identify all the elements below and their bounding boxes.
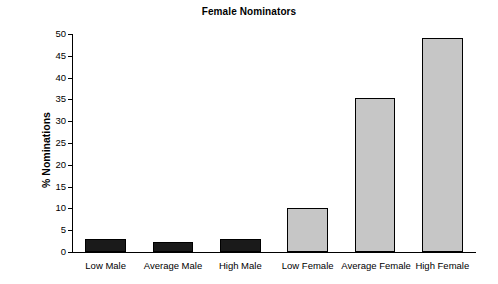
plot-area: 05101520253035404550 Low MaleAverage Mal… [72,34,476,253]
bar [355,98,395,252]
bar [422,38,462,253]
y-tick-mark [68,252,72,253]
x-tick-label: Low Male [72,260,139,271]
y-tick-label: 50 [38,29,66,39]
bar [153,242,193,252]
y-tick-label: 20 [38,160,66,170]
x-tick-label: Average Female [341,260,408,271]
y-tick-mark [68,165,72,166]
x-tick-label: Low Female [274,260,341,271]
bar [287,208,327,252]
y-tick-mark [68,230,72,231]
y-tick-label: 5 [38,225,66,235]
y-tick-label: 10 [38,203,66,213]
y-tick-mark [68,121,72,122]
y-tick-mark [68,78,72,79]
y-tick-label: 25 [38,138,66,148]
bar [85,239,125,252]
y-tick-mark [68,187,72,188]
y-tick-mark [68,34,72,35]
y-tick-mark [68,143,72,144]
y-tick-label: 15 [38,182,66,192]
y-tick-mark [68,56,72,57]
y-tick-label: 45 [38,51,66,61]
y-tick-label: 30 [38,116,66,126]
x-tick-label: Average Male [139,260,206,271]
y-tick-mark [68,99,72,100]
y-tick-mark [68,208,72,209]
chart-title: Female Nominators [0,6,498,17]
x-axis-line [72,252,476,253]
x-tick-label: High Male [207,260,274,271]
y-axis-line [72,34,73,253]
x-tick-label: High Female [409,260,476,271]
y-tick-label: 0 [38,247,66,257]
bar [220,239,260,252]
y-tick-label: 40 [38,73,66,83]
y-tick-label: 35 [38,94,66,104]
chart-container: Female Nominators % Nominations 05101520… [0,0,498,284]
